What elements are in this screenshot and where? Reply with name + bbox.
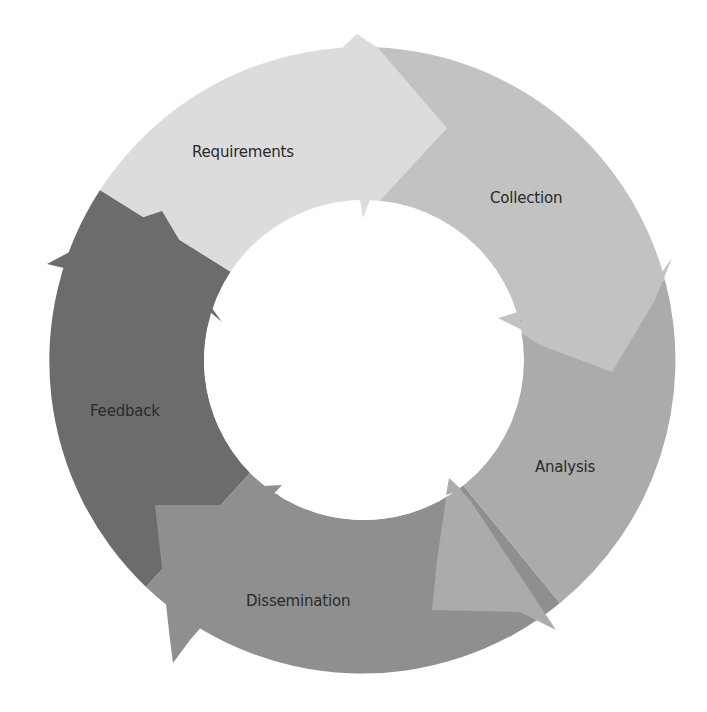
stage-label-collection: Collection bbox=[490, 189, 562, 207]
intelligence-cycle-diagram: Requirements Collection Analysis Dissemi… bbox=[0, 0, 707, 712]
inner-hole bbox=[204, 200, 524, 520]
stage-label-analysis: Analysis bbox=[535, 458, 595, 476]
stage-label-feedback: Feedback bbox=[90, 402, 160, 420]
stage-label-requirements: Requirements bbox=[192, 143, 294, 161]
stage-label-dissemination: Dissemination bbox=[246, 592, 350, 610]
